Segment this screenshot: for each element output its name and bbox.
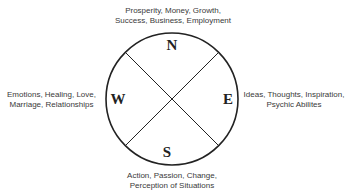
south-description: Action, Passion, Change, Perception of S… xyxy=(92,171,252,191)
east-line-1: Ideas, Thoughts, Inspiration, xyxy=(243,90,345,100)
west-line-1: Emotions, Healing, Love, xyxy=(0,90,103,100)
south-letter: S xyxy=(163,144,171,160)
east-line-2: Psychic Abilites xyxy=(243,100,345,110)
south-line-1: Action, Passion, Change, xyxy=(92,171,252,181)
north-line-1: Prosperity, Money, Growth, xyxy=(83,6,263,16)
north-letter: N xyxy=(167,37,178,53)
east-letter: E xyxy=(223,91,233,107)
west-letter: W xyxy=(111,91,126,107)
west-description: Emotions, Healing, Love, Marriage, Relat… xyxy=(0,90,103,110)
compass-diagram: N W E S Prosperity, Money, Growth, Succe… xyxy=(0,0,345,196)
east-description: Ideas, Thoughts, Inspiration, Psychic Ab… xyxy=(243,90,345,110)
north-line-2: Success, Business, Employment xyxy=(83,16,263,26)
north-description: Prosperity, Money, Growth, Success, Busi… xyxy=(83,6,263,26)
south-line-2: Perception of Situations xyxy=(92,181,252,191)
west-line-2: Marriage, Relationships xyxy=(0,100,103,110)
